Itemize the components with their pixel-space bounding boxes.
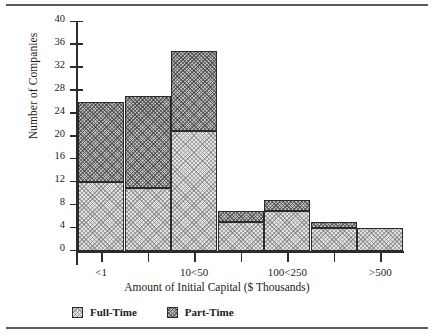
legend-label: Full-Time (90, 306, 137, 318)
y-axis-tick-label: 32 (55, 59, 66, 70)
x-axis-title: Amount of Initial Capital ($ Thousands) (0, 281, 434, 293)
bar-15[interactable] (125, 96, 171, 251)
bar-1[interactable] (78, 102, 124, 251)
full-time-swatch (72, 307, 83, 318)
y-axis-tick-label: 28 (55, 82, 66, 93)
y-axis-tick-label: 16 (55, 150, 66, 161)
y-axis-tick-label: 40 (55, 13, 66, 24)
x-axis-tick-label: >500 (369, 266, 392, 278)
x-axis-tick (241, 252, 243, 262)
y-axis-tick-label: 36 (55, 36, 66, 47)
y-axis-tick-label: 24 (55, 105, 66, 116)
page-rule-top (6, 4, 428, 6)
x-axis-tick (148, 252, 150, 262)
bar-100250[interactable] (264, 199, 310, 251)
part-time-swatch (167, 307, 178, 318)
y-axis-tick: 28 (70, 89, 83, 91)
y-axis-tick-label: 4 (60, 219, 65, 230)
y-axis-tick-label: 8 (60, 196, 65, 207)
bar-segment-full-time[interactable] (78, 182, 124, 251)
chart-legend: Full-TimePart-Time (72, 306, 234, 318)
bar-segment-full-time[interactable] (357, 228, 403, 251)
legend-label: Part-Time (185, 306, 234, 318)
bar-segment-part-time[interactable] (264, 200, 310, 211)
x-axis-tick (380, 252, 382, 262)
bar-1050[interactable] (171, 51, 217, 251)
bar-segment-full-time[interactable] (171, 131, 217, 251)
x-axis-tick (334, 252, 336, 262)
legend-item-part-time[interactable]: Part-Time (167, 306, 234, 318)
y-axis-tick: 40 (70, 21, 83, 23)
bar-segment-part-time[interactable] (78, 102, 124, 182)
bar-segment-full-time[interactable] (264, 211, 310, 251)
bar-segment-full-time[interactable] (311, 228, 357, 251)
y-axis-tick: 36 (70, 43, 83, 45)
x-axis-tick-label: <1 (95, 266, 107, 278)
bar-chart-figure: Number of Companies 0481216202428323640 … (0, 8, 434, 326)
x-axis-tick (287, 252, 289, 262)
y-axis-tick: 32 (70, 66, 83, 68)
bar-segment-full-time[interactable] (125, 188, 171, 251)
y-axis-tick-label: 20 (55, 128, 66, 139)
bar-50100[interactable] (218, 211, 264, 251)
x-axis-tick-label: 100<250 (268, 266, 307, 278)
x-axis-tick-label: 10<50 (180, 266, 208, 278)
x-axis-tick (101, 252, 103, 262)
bar-segment-full-time[interactable] (218, 222, 264, 251)
bar-segment-part-time[interactable] (218, 211, 264, 222)
y-axis-title: Number of Companies (27, 0, 39, 181)
y-axis-tick-label: 12 (55, 173, 66, 184)
plot-area: 0481216202428323640 <110<50100<250>500 (78, 22, 404, 251)
page-rule-bottom (6, 327, 428, 329)
legend-item-full-time[interactable]: Full-Time (72, 306, 137, 318)
bar-segment-part-time[interactable] (311, 222, 357, 228)
bar-segment-part-time[interactable] (125, 96, 171, 188)
y-axis-tick-label: 0 (60, 242, 65, 253)
bar-segment-part-time[interactable] (171, 51, 217, 131)
bar-250500[interactable] (311, 222, 357, 251)
x-axis-tick (194, 252, 196, 262)
bar-500[interactable] (357, 228, 403, 251)
